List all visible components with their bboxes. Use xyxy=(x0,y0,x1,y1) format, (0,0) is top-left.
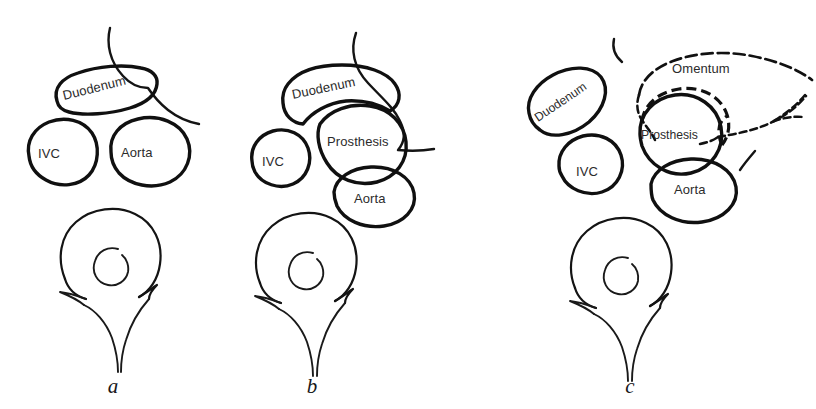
anatomy-diagram-canvas: Duodenum IVC Aorta a xyxy=(0,0,816,409)
panel-letter-b: b xyxy=(307,374,318,398)
ivc-label-b: IVC xyxy=(262,154,284,169)
aorta-label-c: Aorta xyxy=(674,182,706,197)
ivc-label-c: IVC xyxy=(576,164,598,179)
omentum-label-c: Omentum xyxy=(672,61,730,76)
prosthesis-label-b: Prosthesis xyxy=(327,134,389,149)
panel-letter-a: a xyxy=(108,374,119,398)
figure-root: Duodenum IVC Aorta a xyxy=(0,0,816,409)
prosthesis-label-c: Prosthesis xyxy=(641,128,698,142)
panel-letter-c: c xyxy=(625,374,635,398)
aorta-label-a: Aorta xyxy=(121,145,153,160)
ivc-label-a: IVC xyxy=(38,146,60,161)
aorta-label-b: Aorta xyxy=(354,191,386,206)
